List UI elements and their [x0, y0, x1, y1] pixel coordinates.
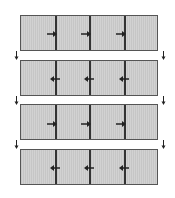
down-arrow-icon — [161, 51, 166, 60]
left-arrow-icon — [50, 164, 60, 172]
panel-4 — [20, 149, 158, 185]
right-arrow-icon — [81, 120, 91, 128]
left-arrow-icon — [84, 164, 94, 172]
panel-1 — [20, 15, 158, 51]
down-arrow-icon — [161, 96, 166, 105]
down-arrow-icon — [14, 51, 19, 60]
left-arrow-icon — [119, 164, 129, 172]
down-arrow-icon — [14, 96, 19, 105]
down-arrow-icon — [14, 140, 19, 149]
right-arrow-icon — [116, 120, 126, 128]
down-arrow-icon — [161, 140, 166, 149]
right-arrow-icon — [116, 30, 126, 38]
panel-2 — [20, 60, 158, 96]
right-arrow-icon — [47, 120, 57, 128]
panel-3 — [20, 104, 158, 140]
right-arrow-icon — [81, 30, 91, 38]
left-arrow-icon — [119, 75, 129, 83]
left-arrow-icon — [50, 75, 60, 83]
left-arrow-icon — [84, 75, 94, 83]
right-arrow-icon — [47, 30, 57, 38]
